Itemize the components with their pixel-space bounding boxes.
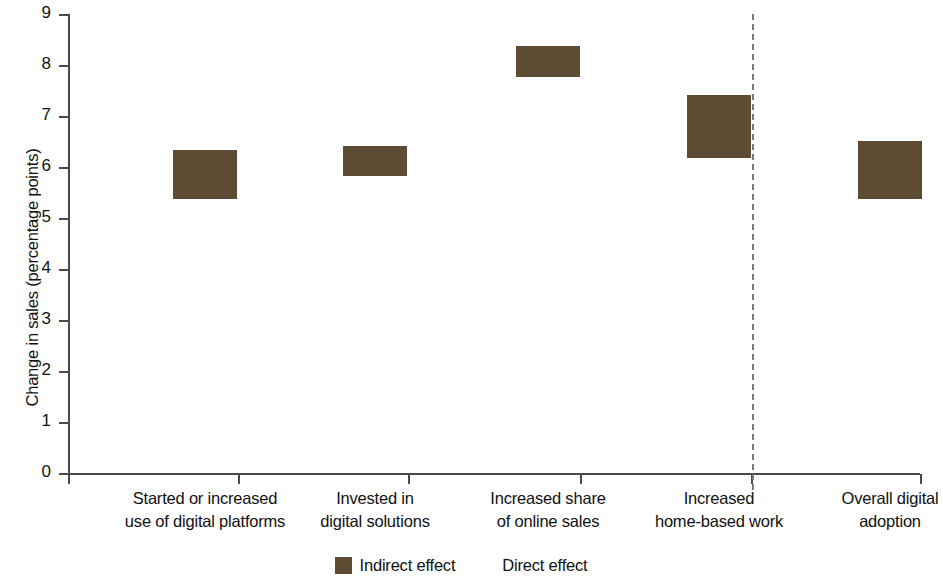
x-axis-label-2: Increased shareof online sales [453,487,643,533]
x-axis-label-3: Increasedhome-based work [624,487,814,533]
y-tick-label-6: 6 [21,156,51,175]
x-axis-label-4: Overall digitaladoption [795,487,943,533]
legend-swatch-indirect [335,557,352,574]
y-tick-label-5: 5 [21,207,51,226]
bar-segment-direct [343,176,407,472]
x-axis-label-line: home-based work [624,510,814,533]
y-tick-2: 2 [59,371,70,373]
y-tick-label-2: 2 [21,360,51,379]
x-axis-label-line: Increased [624,487,814,510]
chart-legend: Indirect effectDirect effect [0,556,922,575]
x-axis-label-line: digital solutions [280,510,470,533]
bar-segment-direct [173,199,237,472]
y-tick-7: 7 [59,116,70,118]
bar-group [173,150,237,472]
bar-segment-indirect [173,150,237,199]
legend-label: Direct effect [502,556,587,575]
x-axis-label-line: Started or increased [110,487,300,510]
legend-label: Indirect effect [360,556,456,575]
bar-group [858,141,922,473]
y-tick-9: 9 [59,14,70,16]
x-axis-label-line: Increased share [453,487,643,510]
y-tick-label-0: 0 [21,462,51,481]
x-tick-0 [68,474,70,484]
y-tick-6: 6 [59,167,70,169]
y-tick-5: 5 [59,218,70,220]
plot-area: 0123456789 [68,14,920,474]
y-tick-label-9: 9 [21,3,51,22]
x-tick-5 [920,474,922,484]
x-tick-2 [408,474,410,484]
y-axis-line [68,14,70,475]
bar-segment-indirect [516,46,580,77]
x-axis-label-1: Invested indigital solutions [280,487,470,533]
bar-segment-direct [516,77,580,472]
x-tick-3 [580,474,582,484]
bar-segment-indirect [858,141,922,200]
legend-swatch-direct [477,557,494,574]
y-tick-1: 1 [59,422,70,424]
y-tick-3: 3 [59,320,70,322]
x-axis-label-line: Invested in [280,487,470,510]
y-tick-label-3: 3 [21,309,51,328]
x-axis-label-line: of online sales [453,510,643,533]
x-axis-label-0: Started or increaseduse of digital platf… [110,487,300,533]
y-tick-label-4: 4 [21,258,51,277]
bar-segment-indirect [343,146,407,177]
y-tick-label-1: 1 [21,411,51,430]
legend-item[interactable]: Indirect effect [335,556,456,575]
bar-group [343,146,407,472]
y-tick-4: 4 [59,269,70,271]
bar-group [516,46,580,472]
y-tick-label-7: 7 [21,105,51,124]
bar-segment-indirect [687,95,751,159]
x-axis-line [68,473,920,475]
x-axis-label-line: adoption [795,510,943,533]
x-tick-1 [238,474,240,484]
vertical-dashed-divider [752,14,754,490]
bar-segment-direct [687,158,751,472]
y-tick-8: 8 [59,65,70,67]
x-axis-label-line: use of digital platforms [110,510,300,533]
y-tick-label-8: 8 [21,54,51,73]
bar-segment-direct [858,199,922,472]
legend-item[interactable]: Direct effect [477,556,587,575]
x-axis-label-line: Overall digital [795,487,943,510]
bar-group [687,95,751,472]
